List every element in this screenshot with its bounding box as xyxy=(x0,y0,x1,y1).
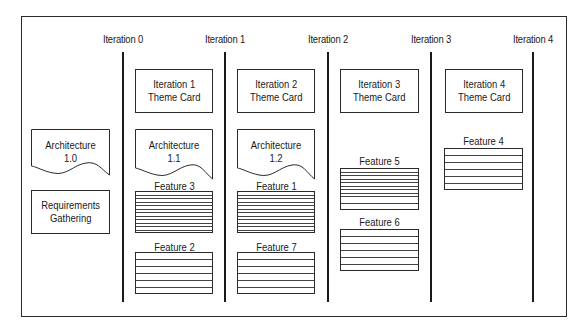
feature-1-card: Feature 1 xyxy=(237,180,315,234)
feature-6-card: Feature 6 xyxy=(340,216,419,272)
iteration-2-boundary xyxy=(327,52,329,302)
theme-card-subtitle: Theme Card xyxy=(250,91,303,104)
feature-card-lines xyxy=(135,191,213,233)
iteration-3-label: Iteration 3 xyxy=(395,33,467,45)
feature-label: Feature 5 xyxy=(359,155,399,167)
feature-3-card: Feature 3 xyxy=(135,180,213,234)
iteration-0-label: Iteration 0 xyxy=(87,33,159,45)
feature-card-lines xyxy=(135,252,213,294)
theme-card-title: Iteration 1 xyxy=(148,78,201,91)
requirements-line1: Requirements xyxy=(41,199,100,212)
feature-label: Feature 4 xyxy=(463,135,503,147)
requirements-gathering-card: Requirements Gathering xyxy=(31,190,110,234)
theme-card-title: Iteration 4 xyxy=(458,78,511,91)
requirements-line2: Gathering xyxy=(41,212,100,225)
architecture-1-0-title: Architecture xyxy=(35,139,106,152)
iteration-3-boundary xyxy=(430,52,432,302)
feature-card-lines xyxy=(340,229,419,271)
architecture-1-1-document: Architecture 1.1 xyxy=(135,129,213,181)
feature-card-lines xyxy=(444,148,523,190)
iteration-2-label: Iteration 2 xyxy=(292,33,364,45)
theme-card-subtitle: Theme Card xyxy=(148,91,201,104)
feature-card-lines xyxy=(237,252,315,294)
iteration-0-boundary xyxy=(122,52,124,302)
theme-card-subtitle: Theme Card xyxy=(458,91,511,104)
iteration-1-theme-card: Iteration 1 Theme Card xyxy=(135,69,213,113)
feature-label: Feature 6 xyxy=(359,216,399,228)
architecture-1-0-document: Architecture 1.0 xyxy=(31,129,110,179)
feature-7-card: Feature 7 xyxy=(237,241,315,295)
iteration-1-label: Iteration 1 xyxy=(189,33,261,45)
feature-card-lines xyxy=(237,191,315,233)
architecture-1-0-version: 1.0 xyxy=(35,152,106,165)
feature-2-card: Feature 2 xyxy=(135,241,213,295)
theme-card-subtitle: Theme Card xyxy=(353,91,406,104)
feature-card-lines xyxy=(340,168,419,210)
architecture-version: 1.2 xyxy=(241,152,311,165)
iteration-4-label: Iteration 4 xyxy=(497,33,569,45)
theme-card-title: Iteration 2 xyxy=(250,78,303,91)
feature-4-card: Feature 4 xyxy=(444,135,523,192)
iteration-4-theme-card: Iteration 4 Theme Card xyxy=(445,69,523,113)
iteration-3-theme-card: Iteration 3 Theme Card xyxy=(340,69,419,113)
iteration-2-theme-card: Iteration 2 Theme Card xyxy=(237,69,315,113)
feature-5-card: Feature 5 xyxy=(340,155,419,211)
architecture-version: 1.1 xyxy=(139,152,209,165)
architecture-title: Architecture xyxy=(241,139,311,152)
theme-card-title: Iteration 3 xyxy=(353,78,406,91)
architecture-1-2-document: Architecture 1.2 xyxy=(237,129,315,181)
iteration-1-boundary xyxy=(224,52,226,302)
iteration-4-boundary xyxy=(532,52,534,302)
architecture-title: Architecture xyxy=(139,139,209,152)
